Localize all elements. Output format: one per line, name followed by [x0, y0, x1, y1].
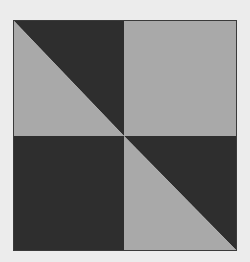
pinwheel-square-diagram: [13, 20, 237, 251]
square-diagram-svg: [14, 21, 236, 250]
bottom-left-dark-quadrant: [14, 136, 124, 250]
top-right-light-quadrant: [124, 21, 236, 136]
